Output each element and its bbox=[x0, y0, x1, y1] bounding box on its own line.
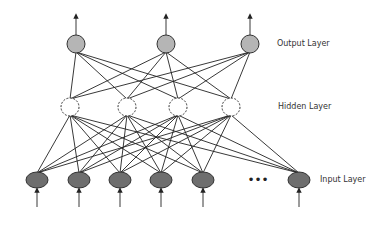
input-layer-label: Input Layer bbox=[320, 175, 366, 184]
input-node bbox=[192, 172, 214, 188]
hidden-node bbox=[118, 98, 136, 116]
hidden-layer-label: Hidden Layer bbox=[278, 102, 331, 111]
input-node bbox=[26, 172, 48, 188]
input-node bbox=[68, 172, 90, 188]
output-layer-label: Output Layer bbox=[277, 39, 330, 48]
output-node bbox=[67, 35, 85, 53]
output-node bbox=[241, 35, 259, 53]
input-node bbox=[150, 172, 172, 188]
input-node bbox=[288, 172, 310, 188]
hidden-node bbox=[169, 98, 187, 116]
ellipsis: ••• bbox=[247, 173, 268, 187]
hidden-node bbox=[61, 98, 79, 116]
output-node bbox=[157, 35, 175, 53]
hidden-node bbox=[222, 98, 240, 116]
input-node bbox=[109, 172, 131, 188]
